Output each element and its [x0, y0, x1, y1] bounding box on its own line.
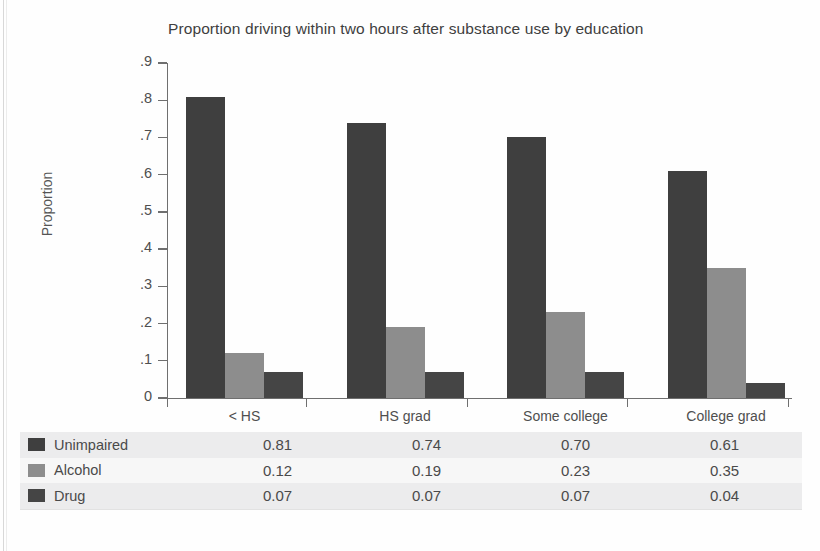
- x-axis-tick: [306, 399, 307, 407]
- bar-alcohol-3: [707, 268, 746, 398]
- legend-value-table: Unimpaired0.810.740.700.61Alcohol0.120.1…: [20, 432, 802, 509]
- table-row: Unimpaired0.810.740.700.61: [20, 432, 802, 458]
- bar-unimpaired-0: [186, 97, 225, 399]
- legend-key-cell: Alcohol: [20, 462, 203, 478]
- bar-drug-2: [585, 372, 624, 398]
- x-axis-category-label: Some college: [486, 408, 646, 424]
- plot-area: Proportion 0.1.2.3.4.5.6.7.8.9 < HSHS gr…: [0, 0, 820, 430]
- legend-series-label: Drug: [54, 488, 85, 504]
- table-value-cell: 0.07: [501, 487, 650, 504]
- legend-swatch-icon: [28, 489, 45, 502]
- table-row: Drug0.070.070.070.04: [20, 483, 802, 509]
- x-axis-tick: [467, 399, 468, 407]
- table-value-cell: 0.81: [203, 436, 352, 453]
- bar-alcohol-1: [386, 327, 425, 398]
- table-value-cell: 0.12: [203, 462, 352, 479]
- x-axis-category-label: College grad: [646, 408, 806, 424]
- legend-swatch-icon: [28, 464, 45, 477]
- x-axis-tick: [627, 399, 628, 407]
- legend-key-cell: Unimpaired: [20, 437, 203, 453]
- bar-drug-3: [746, 383, 785, 398]
- legend-series-label: Unimpaired: [54, 437, 128, 453]
- bar-unimpaired-3: [668, 171, 707, 398]
- legend-key-cell: Drug: [20, 488, 203, 504]
- bar-unimpaired-1: [347, 123, 386, 398]
- table-value-cell: 0.04: [650, 487, 799, 504]
- legend-series-label: Alcohol: [54, 462, 102, 478]
- table-bottom-rule: [20, 509, 802, 510]
- x-axis-tick: [788, 399, 789, 407]
- bar-drug-0: [264, 372, 303, 398]
- table-value-cell: 0.07: [352, 487, 501, 504]
- table-value-cell: 0.19: [352, 462, 501, 479]
- bar-alcohol-0: [225, 353, 264, 398]
- x-axis-tick: [167, 399, 168, 407]
- table-value-cell: 0.35: [650, 462, 799, 479]
- chart-page: Proportion driving within two hours afte…: [0, 0, 820, 551]
- bar-drug-1: [425, 372, 464, 398]
- table-value-cell: 0.70: [501, 436, 650, 453]
- table-value-cell: 0.23: [501, 462, 650, 479]
- x-axis-category-label: HS grad: [325, 408, 485, 424]
- bar-alcohol-2: [546, 312, 585, 398]
- table-value-cell: 0.74: [352, 436, 501, 453]
- table-value-cell: 0.61: [650, 436, 799, 453]
- bars-layer: [0, 0, 820, 398]
- legend-swatch-icon: [28, 438, 45, 451]
- table-row: Alcohol0.120.190.230.35: [20, 458, 802, 484]
- bar-unimpaired-2: [507, 137, 546, 398]
- table-value-cell: 0.07: [203, 487, 352, 504]
- x-axis-category-label: < HS: [165, 408, 325, 424]
